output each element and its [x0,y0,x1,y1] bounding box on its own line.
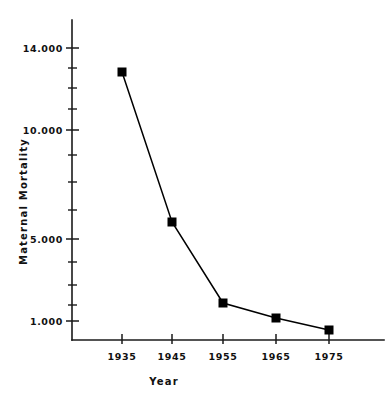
series-line-maternal-mortality [122,72,329,330]
x-axis-title: Year [148,376,179,387]
x-axis-tick-labels: 1935 1945 1955 1965 1975 [108,351,344,362]
y-tick-label: 1.000 [30,316,63,327]
data-point-marker [219,299,228,308]
data-point-marker [118,68,127,77]
data-point-marker [325,326,334,335]
x-tick-label: 1975 [315,351,344,362]
y-tick-label: 14.000 [23,43,63,54]
x-axis-ticks [122,334,329,344]
series-markers [118,68,334,335]
data-point-marker [168,218,177,227]
x-tick-label: 1955 [209,351,238,362]
chart-figure: 14.000 10.000 5.000 1.000 1935 1945 1955… [0,0,392,398]
x-tick-label: 1935 [108,351,137,362]
y-tick-label: 5.000 [30,234,63,245]
x-tick-label: 1965 [262,351,291,362]
data-point-marker [272,314,281,323]
line-chart: 14.000 10.000 5.000 1.000 1935 1945 1955… [0,0,392,398]
y-axis-title: Maternal Mortality [18,138,29,265]
x-tick-label: 1945 [158,351,187,362]
y-tick-label: 10.000 [23,125,63,136]
